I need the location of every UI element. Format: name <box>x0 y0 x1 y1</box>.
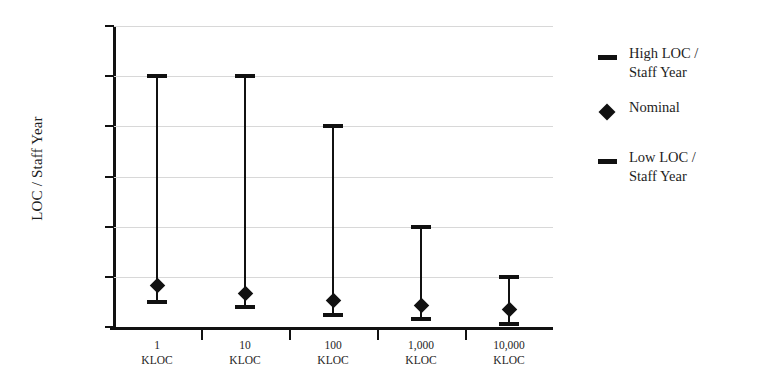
legend-item[interactable]: Nominal <box>597 98 757 132</box>
nominal-value-marker <box>149 278 165 294</box>
range-line <box>332 126 334 315</box>
legend-dash-icon <box>598 159 617 164</box>
y-tick-mark <box>105 125 114 127</box>
low-value-cap <box>411 317 431 321</box>
y-tick-mark <box>105 75 114 77</box>
high-value-cap <box>235 74 255 78</box>
legend-item-label: High LOC / Staff Year <box>629 44 757 82</box>
x-tick-label-value: 10,000 <box>454 338 564 353</box>
nominal-value-marker <box>237 286 253 302</box>
low-value-cap <box>323 313 343 317</box>
legend-item[interactable]: Low LOC / Staff Year <box>597 148 757 186</box>
gridline <box>113 76 553 77</box>
legend-item-label: Low LOC / Staff Year <box>629 148 757 186</box>
chart-legend: High LOC / Staff YearNominalLow LOC / St… <box>597 44 757 202</box>
x-axis-line <box>110 327 553 330</box>
legend-item[interactable]: High LOC / Staff Year <box>597 44 757 82</box>
low-value-cap <box>499 322 519 326</box>
high-value-cap <box>323 124 343 128</box>
x-tick-label-unit: KLOC <box>454 353 564 368</box>
gridline <box>113 26 553 27</box>
nominal-value-marker <box>413 298 429 314</box>
y-tick-mark <box>105 226 114 228</box>
legend-diamond-icon <box>599 104 616 121</box>
y-tick-mark <box>105 276 114 278</box>
high-value-cap <box>147 74 167 78</box>
low-value-cap <box>235 305 255 309</box>
range-line <box>244 76 246 307</box>
legend-marker-diamond <box>597 104 619 118</box>
y-tick-mark <box>105 326 114 328</box>
high-value-cap <box>499 275 519 279</box>
nominal-value-marker <box>325 293 341 309</box>
y-axis-title: LOC / Staff Year <box>29 69 46 269</box>
nominal-value-marker <box>501 302 517 318</box>
y-tick-mark <box>105 176 114 178</box>
high-value-cap <box>411 225 431 229</box>
legend-marker-dash <box>597 154 619 168</box>
legend-item-label: Nominal <box>629 98 757 117</box>
range-line <box>156 76 158 302</box>
x-tick-label: 10,000KLOC <box>454 338 564 368</box>
plot-area: –5,00010,00015,00020,00025,00030,000 <box>113 26 553 327</box>
chart-figure: LOC / Staff Year –5,00010,00015,00020,00… <box>0 0 761 389</box>
y-tick-mark <box>105 25 114 27</box>
low-value-cap <box>147 300 167 304</box>
legend-dash-icon <box>598 55 617 60</box>
legend-marker-dash <box>597 50 619 64</box>
